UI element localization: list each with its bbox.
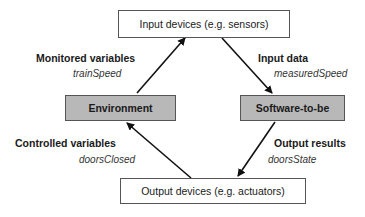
arrow-environment-to-input: [137, 38, 185, 93]
arrow-input-to-software: [222, 38, 272, 93]
software-label: Software-to-be: [256, 102, 330, 114]
arrow-output-to-environment: [127, 123, 191, 178]
environment-box: Environment: [65, 95, 176, 121]
output-results-example: doorsState: [268, 154, 316, 165]
output-devices-box: Output devices (e.g. actuators): [120, 178, 306, 204]
controlled-variables-title: Controlled variables: [15, 137, 116, 149]
input-data-title: Input data: [258, 52, 308, 64]
monitored-variables-title: Monitored variables: [36, 52, 135, 64]
controlled-variables-example: doorsClosed: [79, 154, 135, 165]
input-devices-label: Input devices (e.g. sensors): [140, 18, 269, 30]
arrow-software-to-output: [238, 122, 275, 176]
input-devices-box: Input devices (e.g. sensors): [118, 10, 290, 38]
input-data-example: measuredSpeed: [274, 68, 365, 79]
output-devices-label: Output devices (e.g. actuators): [141, 185, 285, 197]
monitored-variables-example: trainSpeed: [73, 68, 121, 79]
software-box: Software-to-be: [240, 95, 345, 121]
output-results-title: Output results: [274, 137, 346, 149]
environment-label: Environment: [88, 102, 152, 114]
